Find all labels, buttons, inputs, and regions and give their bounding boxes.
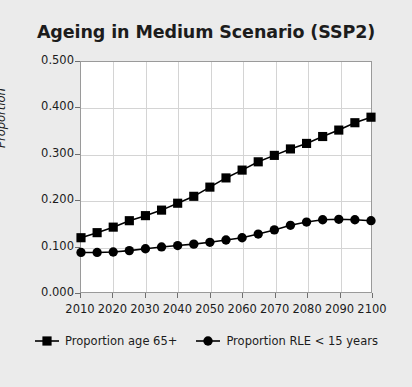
y-tick-label: 0.200 (32, 192, 74, 206)
data-point-marker (125, 216, 134, 225)
y-axis-title: Proportion (0, 88, 8, 148)
data-point-marker (286, 144, 295, 153)
data-point-marker (334, 126, 343, 135)
data-point-marker (125, 246, 134, 255)
x-tick-mark (80, 293, 81, 298)
x-tick-mark (340, 293, 341, 298)
data-point-marker (302, 217, 311, 226)
data-point-marker (238, 166, 247, 175)
x-tick-mark (177, 293, 178, 298)
plot-area (80, 61, 372, 293)
x-tick-mark (112, 293, 113, 298)
data-point-marker (205, 183, 214, 192)
data-point-marker (221, 235, 230, 244)
y-tick-mark (75, 61, 80, 62)
data-point-marker (254, 157, 263, 166)
data-point-marker (318, 215, 327, 224)
y-tick-label: 0.400 (32, 99, 74, 113)
data-point-marker (141, 244, 150, 253)
data-point-marker (189, 240, 198, 249)
y-tick-mark (75, 107, 80, 108)
data-point-marker (366, 216, 375, 225)
data-point-marker (92, 248, 101, 257)
data-point-marker (173, 199, 182, 208)
data-point-marker (141, 211, 150, 220)
y-tick-mark (75, 200, 80, 201)
data-point-marker (334, 215, 343, 224)
data-point-marker (350, 118, 359, 127)
x-tick-label: 2100 (352, 302, 392, 316)
y-tick-label: 0.500 (32, 53, 74, 67)
data-point-marker (270, 151, 279, 160)
legend-label: Proportion RLE < 15 years (226, 334, 378, 348)
data-point-marker (93, 228, 102, 237)
legend-marker-circle-icon (195, 334, 221, 348)
legend-label: Proportion age 65+ (65, 334, 177, 348)
data-point-marker (254, 229, 263, 238)
x-tick-mark (372, 293, 373, 298)
series-layer (81, 62, 371, 292)
data-point-marker (189, 192, 198, 201)
data-point-marker (286, 221, 295, 230)
data-point-marker (173, 241, 182, 250)
legend-entry-0[interactable]: Proportion age 65+ (34, 334, 177, 348)
data-point-marker (157, 206, 166, 215)
legend-marker-square-icon (34, 334, 60, 348)
data-point-marker (76, 248, 85, 257)
data-point-marker (366, 113, 375, 122)
data-point-marker (157, 242, 166, 251)
y-tick-label: 0.000 (32, 285, 74, 299)
y-tick-mark (75, 154, 80, 155)
x-tick-mark (145, 293, 146, 298)
data-point-marker (318, 132, 327, 141)
x-tick-mark (275, 293, 276, 298)
data-point-marker (237, 233, 246, 242)
y-tick-label: 0.300 (32, 146, 74, 160)
x-tick-mark (210, 293, 211, 298)
data-point-marker (302, 139, 311, 148)
data-point-marker (205, 238, 214, 247)
data-point-marker (350, 215, 359, 224)
y-tick-mark (75, 247, 80, 248)
data-point-marker (76, 233, 85, 242)
chart-figure: Ageing in Medium Scenario (SSP2) Proport… (0, 0, 412, 387)
x-tick-mark (242, 293, 243, 298)
data-point-marker (221, 173, 230, 182)
data-point-marker (270, 225, 279, 234)
x-tick-mark (307, 293, 308, 298)
legend-entry-1[interactable]: Proportion RLE < 15 years (195, 334, 378, 348)
chart-legend: Proportion age 65+Proportion RLE < 15 ye… (0, 334, 412, 348)
data-point-marker (109, 223, 118, 232)
data-point-marker (109, 247, 118, 256)
y-tick-label: 0.100 (32, 239, 74, 253)
chart-title: Ageing in Medium Scenario (SSP2) (0, 22, 412, 42)
